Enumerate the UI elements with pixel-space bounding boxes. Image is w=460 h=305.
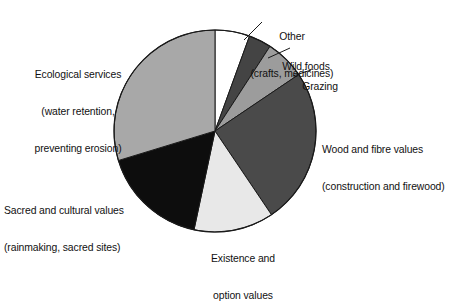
slice-label-existence-and-option-values: Existence and option values bbox=[188, 228, 298, 305]
slice-label-ecological-line2: (water retention, bbox=[12, 106, 144, 118]
slice-label-sacred-line2: (rainmaking, sacred sites) bbox=[4, 242, 152, 254]
slice-label-grazing: Grazing bbox=[270, 56, 370, 118]
slice-label-existence-line2: option values bbox=[188, 290, 298, 302]
slice-label-ecological-line3: preventing erosion) bbox=[12, 143, 144, 155]
slice-label-sacred-line1: Sacred and cultural values bbox=[4, 205, 152, 217]
slice-label-grazing-line1: Grazing bbox=[270, 81, 370, 93]
slice-label-ecological-line1: Ecological services bbox=[12, 69, 144, 81]
slice-label-wood-line2: (construction and firewood) bbox=[322, 181, 460, 193]
slice-label-existence-line1: Existence and bbox=[188, 253, 298, 265]
slice-label-wood-line1: Wood and fibre values bbox=[322, 144, 460, 156]
slice-label-ecological-services: Ecological services (water retention, pr… bbox=[12, 44, 144, 180]
slice-label-wood-and-fibre-values: Wood and fibre values (construction and … bbox=[322, 119, 460, 218]
slice-label-sacred-and-cultural-values: Sacred and cultural values (rainmaking, … bbox=[4, 180, 152, 279]
